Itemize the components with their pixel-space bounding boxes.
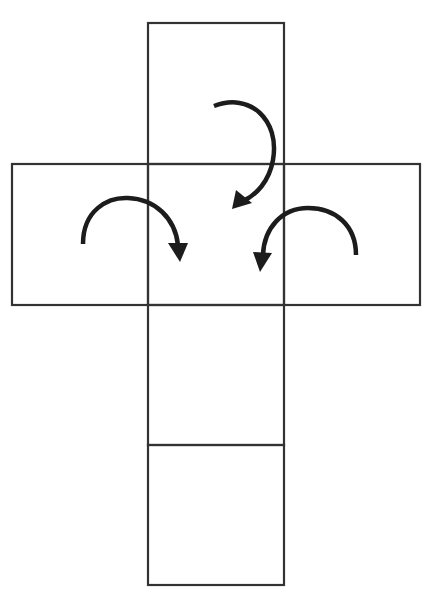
- clockwise-arrow-icon-left: [83, 198, 188, 262]
- cube-net-diagram: [0, 0, 434, 594]
- face-top: [148, 23, 284, 164]
- face-bottom: [148, 445, 284, 585]
- face-left: [12, 164, 148, 305]
- counterclockwise-arrow-icon-right: [253, 208, 356, 272]
- face-lower: [148, 305, 284, 445]
- clockwise-arrow-icon-top: [214, 102, 274, 209]
